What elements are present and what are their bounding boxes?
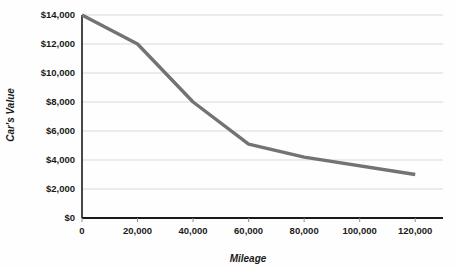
axes-group bbox=[82, 15, 443, 218]
y-tick-label-4000: $4,000 bbox=[46, 154, 75, 165]
y-tick-label-12000: $12,000 bbox=[41, 38, 75, 49]
y-axis-title: Car's Value bbox=[5, 88, 16, 142]
x-tick-label-100000: 100,000 bbox=[343, 225, 377, 236]
x-tick-label-60000: 60,000 bbox=[234, 225, 263, 236]
x-tick-label-0: 0 bbox=[79, 225, 84, 236]
y-tick-label-10000: $10,000 bbox=[41, 67, 75, 78]
chart-screenshot: $0$2,000$4,000$6,000$8,000$10,000$12,000… bbox=[0, 0, 456, 267]
chart-svg: $0$2,000$4,000$6,000$8,000$10,000$12,000… bbox=[0, 0, 456, 267]
x-tick-labels-group: 020,00040,00060,00080,000100,000120,000 bbox=[79, 225, 432, 236]
x-tick-label-20000: 20,000 bbox=[123, 225, 152, 236]
y-tick-label-0: $0 bbox=[64, 212, 75, 223]
y-tick-label-8000: $8,000 bbox=[46, 96, 75, 107]
series-line-cars-value bbox=[82, 15, 415, 175]
gridlines-group bbox=[82, 15, 443, 189]
y-tick-label-2000: $2,000 bbox=[46, 183, 75, 194]
line-chart: $0$2,000$4,000$6,000$8,000$10,000$12,000… bbox=[0, 0, 456, 267]
y-tick-label-6000: $6,000 bbox=[46, 125, 75, 136]
y-tick-label-14000: $14,000 bbox=[41, 9, 75, 20]
data-series-group bbox=[82, 15, 415, 175]
x-tick-label-120000: 120,000 bbox=[398, 225, 432, 236]
y-tick-labels-group: $0$2,000$4,000$6,000$8,000$10,000$12,000… bbox=[41, 9, 75, 223]
x-tick-label-80000: 80,000 bbox=[290, 225, 319, 236]
x-tick-label-40000: 40,000 bbox=[179, 225, 208, 236]
x-axis-title: Mileage bbox=[230, 253, 267, 264]
